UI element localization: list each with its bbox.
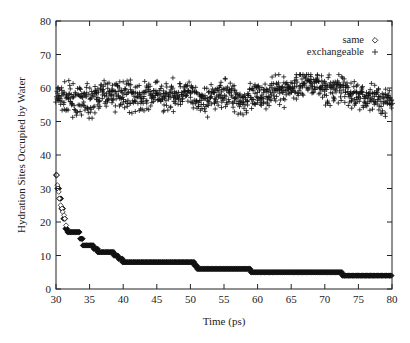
x-tick-label: 35 — [84, 293, 96, 305]
x-tick-label: 55 — [219, 293, 231, 305]
y-tick-label: 80 — [40, 15, 52, 27]
x-tick-label: 50 — [185, 293, 197, 305]
legend-label-exchangeable: exchangeable — [307, 46, 364, 57]
chart-plot: 3035404550556065707580 01020304050607080… — [0, 0, 410, 343]
y-tick-label: 30 — [40, 183, 52, 195]
y-tick-label: 50 — [40, 116, 52, 128]
x-tick-label: 80 — [387, 293, 399, 305]
plus-icon — [372, 49, 378, 55]
x-tick-label: 45 — [151, 293, 163, 305]
y-tick-label: 70 — [40, 49, 52, 61]
y-axis-title: Hydration Sites Occupied by Water — [15, 77, 27, 233]
x-tick-label: 30 — [51, 293, 63, 305]
x-tick-label: 65 — [286, 293, 298, 305]
x-tick-label: 70 — [319, 293, 331, 305]
y-tick-label: 60 — [40, 82, 52, 94]
y-tick-label: 20 — [40, 216, 52, 228]
series-exchangeable — [53, 72, 395, 120]
diamond-icon — [372, 38, 378, 44]
x-axis-title: Time (ps) — [203, 315, 246, 328]
y-axis: 01020304050607080 — [40, 15, 392, 295]
series-same — [53, 173, 394, 279]
plot-frame — [56, 21, 392, 289]
x-tick-label: 75 — [353, 293, 365, 305]
legend-label-same: same — [342, 34, 364, 45]
x-tick-label: 40 — [118, 293, 130, 305]
x-axis: 3035404550556065707580 — [51, 21, 399, 305]
x-tick-label: 60 — [252, 293, 264, 305]
legend: same exchangeable — [307, 34, 378, 57]
y-tick-label: 10 — [40, 250, 52, 262]
y-tick-label: 40 — [40, 149, 52, 161]
y-tick-label: 0 — [46, 283, 52, 295]
